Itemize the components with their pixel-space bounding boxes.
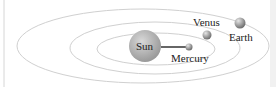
venus-label: Venus (193, 17, 220, 28)
earth-label: Earth (229, 32, 253, 43)
earth-body (235, 18, 246, 29)
right-edge-shade (270, 0, 276, 87)
mercury-body (186, 44, 193, 51)
mercury-label: Mercury (171, 53, 209, 64)
sun-label: Sun (136, 41, 153, 52)
solar-system-diagram: Sun Mercury Venus Earth (0, 0, 276, 87)
venus-body (203, 31, 212, 40)
